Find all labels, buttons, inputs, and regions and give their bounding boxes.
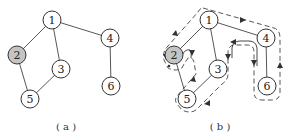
panel-b: 1 2 3 4 5 6 ( b ) <box>163 8 283 132</box>
arrow-icon <box>225 54 231 60</box>
node-4: 4 <box>257 29 275 47</box>
traversal-start-dot <box>168 65 171 68</box>
panel-a: 1 2 3 4 5 6 ( a ) <box>8 11 120 132</box>
node-label: 6 <box>108 80 115 93</box>
arrow-icon <box>172 30 178 36</box>
node-1: 1 <box>200 11 218 29</box>
node-label: 2 <box>14 49 21 62</box>
panel-b-edges <box>174 20 267 99</box>
node-6: 6 <box>258 77 276 95</box>
node-label: 5 <box>27 93 34 106</box>
node-2: 2 <box>165 46 183 64</box>
node-label: 4 <box>263 32 270 45</box>
node-2: 2 <box>8 46 26 64</box>
graph-figure: 1 2 3 4 5 6 ( a ) <box>0 0 288 140</box>
node-label: 5 <box>184 93 191 106</box>
node-3: 3 <box>209 60 227 78</box>
node-label: 3 <box>215 63 222 76</box>
arrow-icon <box>240 17 246 23</box>
panel-a-edges <box>17 20 111 99</box>
arrow-icon <box>189 50 195 56</box>
node-4: 4 <box>101 29 119 47</box>
node-label: 4 <box>107 32 114 45</box>
arrow-icon <box>277 62 283 68</box>
node-label: 3 <box>58 63 65 76</box>
caption-b: ( b ) <box>210 121 231 132</box>
arrow-icon <box>251 60 257 66</box>
node-label: 2 <box>171 49 178 62</box>
node-1: 1 <box>43 11 61 29</box>
node-5: 5 <box>21 90 39 108</box>
caption-a: ( a ) <box>56 121 76 132</box>
node-6: 6 <box>102 77 120 95</box>
node-label: 1 <box>49 14 56 27</box>
node-3: 3 <box>52 60 70 78</box>
node-label: 1 <box>206 14 213 27</box>
node-5: 5 <box>178 90 196 108</box>
node-label: 6 <box>264 80 271 93</box>
